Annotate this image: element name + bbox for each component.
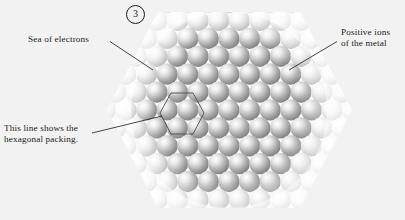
label-hexagonal-packing: This line shows thehexagonal packing. — [4, 123, 78, 145]
label-sea-of-electrons-text: Sea of electrons — [28, 34, 89, 44]
diagram-canvas: 3 Sea of electrons Positive ionsof the m… — [0, 0, 405, 220]
label-positive-ions-line1: Positive ions — [341, 27, 390, 37]
label-hexagonal-packing-line2: hexagonal packing. — [4, 134, 78, 144]
label-sea-of-electrons: Sea of electrons — [28, 34, 89, 45]
label-positive-ions: Positive ionsof the metal — [341, 27, 390, 49]
step-number-badge: 3 — [126, 5, 145, 24]
label-hexagonal-packing-line1: This line shows the — [4, 123, 78, 133]
label-positive-ions-line2: of the metal — [341, 38, 387, 48]
